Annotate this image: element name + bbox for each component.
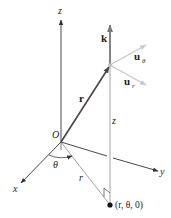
u-theta-unit-vector: [110, 45, 146, 65]
u-r-label: u: [124, 75, 130, 87]
radius-guide-line: [61, 142, 110, 205]
theta-arc: [49, 155, 72, 158]
projection-point-label: (r, θ, 0): [115, 200, 143, 211]
point-p-marker: [108, 63, 112, 67]
u-r-subscript: r: [132, 82, 135, 90]
height-label: z: [111, 115, 116, 126]
right-angle-marker: [104, 188, 110, 197]
projection-point: [107, 202, 112, 207]
y-axis-segment: [61, 142, 107, 156]
y-axis-label: y: [159, 166, 165, 177]
z-axis-label: z: [57, 5, 62, 16]
origin-label: O: [52, 129, 59, 140]
position-vector-r: [61, 67, 109, 142]
x-axis-label: x: [12, 183, 18, 194]
radius-label: r: [79, 172, 83, 183]
theta-label: θ: [53, 159, 58, 170]
u-theta-subscript: θ: [142, 57, 146, 65]
cylindrical-diagram: z x y z r θ O r k u θ u r (r, θ, 0): [0, 0, 171, 218]
y-axis: [113, 158, 158, 171]
k-vector-label: k: [101, 32, 108, 44]
u-theta-label: u: [134, 50, 140, 62]
position-vector-label: r: [79, 92, 84, 104]
